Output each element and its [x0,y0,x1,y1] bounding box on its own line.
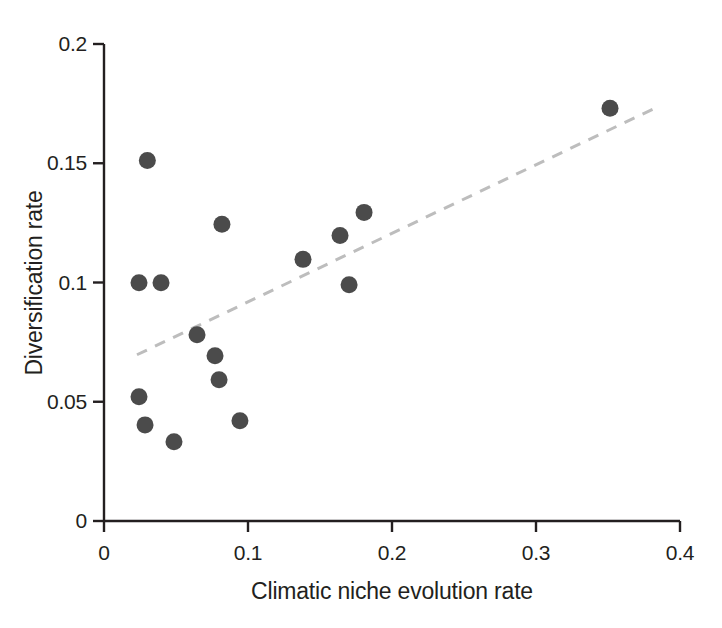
data-point [130,274,147,291]
trend-line-path [137,108,655,355]
data-point [153,274,170,291]
data-point [602,100,619,117]
data-point [211,371,228,388]
x-tick-label: 0.4 [666,541,695,565]
data-point [130,388,147,405]
data-point [356,204,373,221]
y-tick-label: 0.2 [58,32,87,56]
x-tick-label: 0.3 [522,541,551,565]
data-point [207,347,224,364]
y-tick-label: 0.05 [47,390,87,414]
data-point [189,326,206,343]
y-axis-title: Diversification rate [21,190,48,375]
scatter-plot-figure: 00.050.10.150.2 00.10.20.30.4 Climatic n… [0,0,722,628]
y-tick-label: 0 [76,509,87,533]
data-point [295,251,312,268]
x-tick-label: 0 [98,541,109,565]
plot-canvas [0,0,722,628]
y-tick-label: 0.1 [58,271,87,295]
y-tick-label: 0.15 [47,151,87,175]
x-axis-title: Climatic niche evolution rate [251,578,533,605]
trend-line [137,108,655,355]
data-point [165,433,182,450]
data-point [231,412,248,429]
data-points [130,100,618,451]
data-point [139,152,156,169]
axes [93,44,680,532]
x-tick-label: 0.2 [378,541,407,565]
x-tick-label: 0.1 [234,541,263,565]
data-point [213,216,230,233]
data-point [137,416,154,433]
data-point [341,276,358,293]
data-point [332,227,349,244]
